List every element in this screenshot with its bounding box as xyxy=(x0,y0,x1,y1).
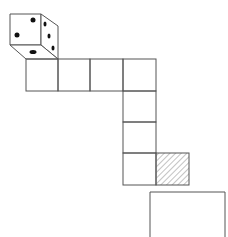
path-square xyxy=(123,91,156,122)
pip xyxy=(15,33,20,38)
pip xyxy=(44,22,47,27)
die-front-face xyxy=(10,14,41,45)
pip xyxy=(48,34,51,39)
path-square xyxy=(26,59,58,91)
pip xyxy=(52,46,55,51)
path-square xyxy=(123,153,156,185)
pip xyxy=(31,18,36,23)
path-square xyxy=(90,59,123,91)
path-square xyxy=(123,59,156,91)
open-box xyxy=(150,192,225,237)
hatched-target-square xyxy=(156,153,189,185)
path-square xyxy=(123,122,156,153)
dice-path-diagram xyxy=(0,0,228,237)
pip xyxy=(30,50,37,54)
path-squares xyxy=(26,59,156,185)
path-square xyxy=(58,59,90,91)
die xyxy=(10,14,58,59)
